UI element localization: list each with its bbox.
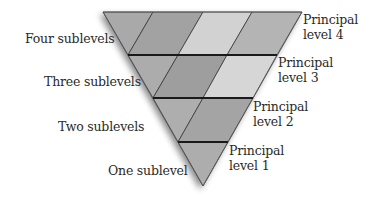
principal-level-4-row [103, 12, 302, 55]
sublevel-label: Two sublevels [58, 119, 144, 134]
principal-label-line2: level 1 [229, 158, 284, 173]
principal-level-2-row [153, 98, 253, 142]
principal-level-3-row [128, 55, 277, 98]
principal-level-label: Principal level 1 [229, 143, 284, 173]
energy-level-triangle-diagram: Four sublevels Three sublevels Two suble… [0, 0, 369, 198]
sublevel-label: Three sublevels [44, 74, 141, 89]
principal-label-line2: level 3 [278, 70, 333, 85]
sublevel-label: One sublevel [108, 163, 188, 178]
principal-label-line1: Principal [278, 55, 333, 70]
sublevel-label: Four sublevels [25, 31, 114, 46]
principal-level-label: Principal level 4 [303, 12, 358, 42]
principal-label-line2: level 2 [253, 114, 308, 129]
principal-label-line1: Principal [229, 143, 284, 158]
principal-label-line1: Principal [253, 99, 308, 114]
principal-label-line1: Principal [303, 12, 358, 27]
principal-label-line2: level 4 [303, 27, 358, 42]
principal-level-label: Principal level 2 [253, 99, 308, 129]
principal-level-label: Principal level 3 [278, 55, 333, 85]
